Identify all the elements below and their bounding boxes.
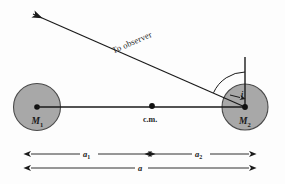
figure-container: M1 M2 c.m. i To observer — [0, 0, 285, 184]
center-of-mass-label: c.m. — [143, 115, 157, 124]
binary-star-diagram: M1 M2 c.m. i To observer — [0, 0, 285, 184]
center-of-mass-dot — [149, 103, 155, 109]
secondary-body-center-dot — [242, 104, 248, 110]
